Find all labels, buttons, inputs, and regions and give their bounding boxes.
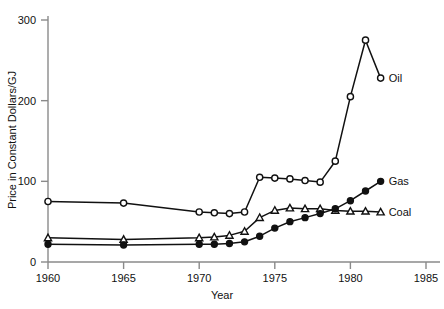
line-chart: 0100200300 196019651970197519801985 OilC… [0,0,444,309]
data-point-gas [45,241,51,247]
x-tick-label: 1970 [187,272,211,284]
data-point-gas [272,225,278,231]
data-point-coal [256,214,263,220]
data-point-oil [332,158,338,164]
data-point-oil [347,94,353,100]
series-layer [44,37,384,248]
data-point-gas [317,211,323,217]
series-line-oil [48,40,381,213]
x-tick-label: 1960 [36,272,60,284]
x-tick-label: 1985 [414,272,438,284]
data-point-gas [257,233,263,239]
data-point-coal [362,208,369,214]
axis-group [48,16,440,262]
data-point-coal [120,236,127,242]
data-point-coal [286,204,293,210]
data-point-gas [196,241,202,247]
y-axis-ticks: 0100200300 [18,14,48,268]
y-tick-label: 0 [30,256,36,268]
data-point-gas [211,241,217,247]
x-axis-ticks: 196019651970197519801985 [36,262,438,284]
data-point-coal [44,234,51,240]
y-tick-label: 200 [18,95,36,107]
data-point-oil [211,210,217,216]
series-labels-layer: OilCoalGas [389,72,412,218]
x-tick-label: 1975 [263,272,287,284]
x-tick-label: 1965 [111,272,135,284]
data-point-coal [271,207,278,213]
chart-canvas: 0100200300 196019651970197519801985 OilC… [0,0,444,309]
data-point-oil [241,209,247,215]
data-point-coal [226,232,233,238]
data-point-oil [121,200,127,206]
data-point-gas [287,219,293,225]
x-axis-title: Year [211,289,234,301]
data-point-coal [211,233,218,239]
data-point-oil [287,176,293,182]
data-point-oil [362,37,368,43]
data-point-gas [332,206,338,212]
data-point-gas [242,239,248,245]
data-point-gas [378,178,384,184]
data-point-oil [196,209,202,215]
series-label-oil: Oil [389,72,402,84]
y-axis-title: Price in Constant Dollars/GJ [6,71,18,209]
y-tick-label: 100 [18,175,36,187]
data-point-gas [363,188,369,194]
data-point-oil [317,179,323,185]
data-point-oil [257,174,263,180]
x-tick-label: 1980 [338,272,362,284]
data-point-oil [378,75,384,81]
series-label-coal: Coal [389,206,412,218]
data-point-oil [272,175,278,181]
data-point-coal [301,205,308,211]
data-point-oil [45,198,51,204]
data-point-gas [226,240,232,246]
data-point-coal [196,234,203,240]
data-point-gas [347,198,353,204]
data-point-oil [302,177,308,183]
series-label-gas: Gas [389,175,410,187]
data-point-gas [302,215,308,221]
data-point-coal [377,208,384,214]
data-point-gas [121,242,127,248]
data-point-coal [347,208,354,214]
y-tick-label: 300 [18,14,36,26]
data-point-oil [226,211,232,217]
